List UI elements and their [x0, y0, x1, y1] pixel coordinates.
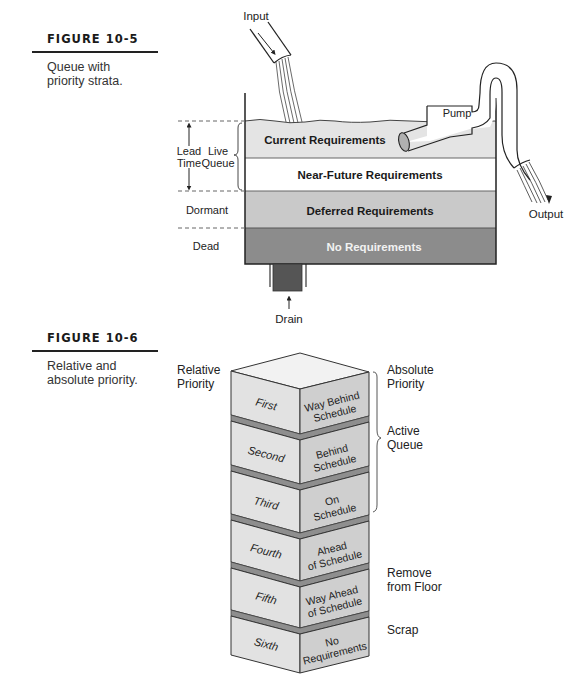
dead-label: Dead	[193, 240, 219, 252]
diagram-canvas: Current Requirements Near-Future Require…	[0, 0, 587, 700]
priority-stack-diagram: Relative Priority Absolute Priority	[177, 353, 442, 673]
relative-priority-header: Relative	[177, 363, 221, 377]
layer-label: Deferred Requirements	[306, 205, 433, 217]
layer-label: No Requirements	[326, 241, 421, 253]
remove-from-floor-label: Remove	[387, 566, 432, 580]
live-queue-label: Live	[208, 145, 228, 157]
pump-label: Pump	[443, 107, 472, 119]
lead-time-label: Time	[177, 157, 201, 169]
scrap-label: Scrap	[387, 623, 419, 637]
live-queue-label: Queue	[201, 157, 234, 169]
remove-from-floor-label: from Floor	[387, 580, 442, 594]
active-queue-label: Queue	[387, 438, 423, 452]
active-queue-brace	[373, 372, 381, 512]
drain-label: Drain	[275, 313, 302, 325]
absolute-priority-header: Absolute	[387, 363, 434, 377]
input-label: Input	[243, 10, 269, 22]
relative-priority-header: Priority	[177, 377, 214, 391]
absolute-priority-header: Priority	[387, 377, 424, 391]
dormant-label: Dormant	[186, 204, 228, 216]
layer-label: Near-Future Requirements	[297, 169, 442, 181]
layer-label: Current Requirements	[264, 134, 385, 146]
drain-icon	[270, 264, 306, 309]
input-pipe-icon	[250, 22, 302, 123]
queue-tank-diagram: Current Requirements Near-Future Require…	[177, 10, 564, 325]
active-queue-label: Active	[387, 424, 420, 438]
lead-time-label: Lead	[177, 145, 201, 157]
output-label: Output	[529, 208, 564, 220]
